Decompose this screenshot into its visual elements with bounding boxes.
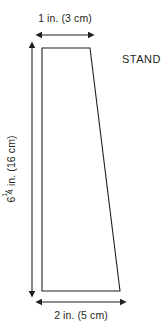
stand-title-label: STAND [122,54,161,65]
stand-dimension-diagram: 1 in. (3 cm) 2 in. (5 cm) STAND 614 in. … [0,0,168,335]
height-units: in. (16 cm) [5,135,17,189]
bottom-width-label: 2 in. (5 cm) [0,310,162,321]
height-whole-number: 6 [5,197,17,203]
top-width-label: 1 in. (3 cm) [0,13,130,24]
height-fraction: 14 [4,189,15,197]
fraction-denominator: 4 [8,189,15,193]
diagram-canvas [0,0,168,335]
height-label: 614 in. (16 cm) [4,109,16,229]
fraction-numerator: 1 [2,193,9,197]
trapezoid-stand-outline [42,48,120,291]
